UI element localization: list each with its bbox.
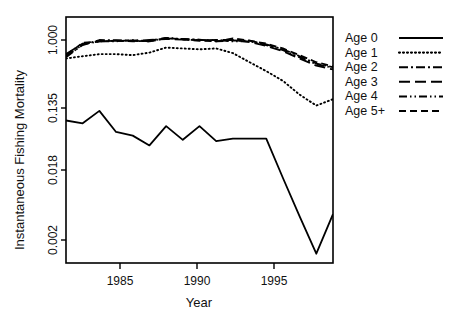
figure-container: Instantaneous Fishing Mortality 1.000 0.… (0, 0, 449, 327)
chart-legend: Age 0Age 1Age 2Age 3Age 4Age 5+ (345, 31, 443, 118)
y-axis-title: Instantaneous Fishing Mortality (12, 70, 27, 250)
legend-label-age-2: Age 2 (345, 60, 378, 74)
series-layer (66, 38, 333, 254)
x-tick-label-1: 1990 (184, 274, 211, 288)
x-axis-ticks (120, 263, 274, 269)
y-tick-label-1: 0.135 (46, 93, 60, 123)
x-tick-label-0: 1985 (107, 274, 134, 288)
x-tick-label-2: 1995 (261, 274, 288, 288)
x-tick-labels: 1985 1990 1995 (107, 274, 288, 288)
y-tick-label-2: 0.018 (46, 155, 60, 185)
legend-label-age-1: Age 1 (345, 46, 378, 60)
legend-label-age-4: Age 4 (345, 89, 378, 103)
fishing-mortality-line-chart: Instantaneous Fishing Mortality 1.000 0.… (0, 0, 449, 327)
x-axis-title: Year (186, 295, 213, 310)
y-tick-label-3: 0.002 (46, 225, 60, 255)
legend-label-age-3: Age 3 (345, 75, 378, 89)
series-line-age-0 (66, 111, 333, 254)
legend-label-age-0: Age 0 (345, 31, 378, 45)
legend-label-age-5: Age 5+ (345, 104, 385, 118)
y-tick-labels: 1.000 0.135 0.018 0.002 (46, 25, 60, 255)
y-tick-label-0: 1.000 (46, 25, 60, 55)
